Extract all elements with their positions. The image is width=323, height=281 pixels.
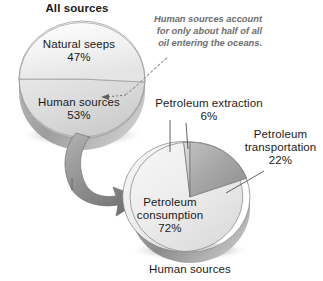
bottom-pie-label-consumption: Petroleum consumption 72% [124,196,216,235]
top-pie-label-human-sources-text: Human sources [38,96,120,108]
bottom-pie-label-extraction: Petroleum extraction 6% [138,97,280,123]
bottom-pie-label-consumption-text: Petroleum consumption [137,196,203,221]
bottom-pie-value-consumption: 72% [124,222,216,235]
annotation-text: Human sources account for only about hal… [152,13,262,49]
top-pie-label-human-sources: Human sources 53% [16,96,142,122]
bottom-chart-caption: Human sources [140,263,240,276]
oil-sources-pie-figure: All sources Natural seeps 47% Human sour… [0,0,323,281]
bottom-pie-value-extraction: 6% [138,110,280,123]
bottom-pie-label-transportation: Petroleum transportation 22% [238,128,323,167]
bottom-pie-value-transportation: 22% [238,154,323,167]
top-pie-value-human-sources: 53% [16,109,142,122]
top-pie-value-natural-seeps: 47% [20,51,138,64]
top-pie-label-natural-seeps: Natural seeps 47% [20,38,138,64]
bottom-pie-label-transportation-text: Petroleum transportation [245,128,317,153]
bottom-pie-label-extraction-text: Petroleum extraction [155,97,262,109]
top-chart-title: All sources [30,2,124,15]
top-pie-label-natural-seeps-text: Natural seeps [43,38,115,50]
